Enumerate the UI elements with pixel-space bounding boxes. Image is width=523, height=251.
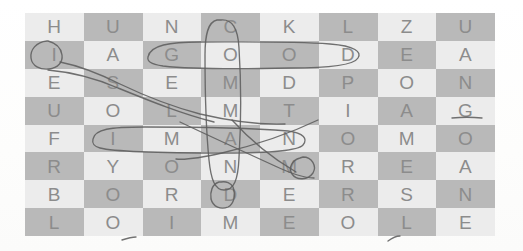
grid-cell[interactable]: M [260,152,319,180]
grid-cell[interactable]: I [143,208,202,236]
grid-cell[interactable]: A [436,41,495,69]
grid-cell[interactable]: L [25,208,84,236]
grid-cell[interactable]: H [25,13,84,41]
grid-cell[interactable]: D [319,41,378,69]
grid-cell[interactable]: I [84,125,143,153]
grid-cell[interactable]: U [436,13,495,41]
grid-cell[interactable]: O [378,69,437,97]
grid-cell[interactable]: O [84,180,143,208]
grid-cell[interactable]: N [143,13,202,41]
grid-row: I A G O O D E A [25,41,495,69]
grid-cell[interactable]: B [25,180,84,208]
grid-cell[interactable]: M [378,125,437,153]
grid-cell[interactable]: R [319,180,378,208]
letter-grid-body: H U N C K L Z U I A G O O D E A [25,13,495,236]
grid-cell[interactable]: D [201,180,260,208]
grid-cell[interactable]: E [378,41,437,69]
grid-row: B O R D E R S N [25,180,495,208]
grid-cell[interactable]: R [143,180,202,208]
worksheet-page: H U N C K L Z U I A G O O D E A [0,0,523,251]
grid-cell[interactable]: A [84,41,143,69]
grid-cell[interactable]: E [378,152,437,180]
grid-row: H U N C K L Z U [25,13,495,41]
grid-row: F I M A N O M O [25,125,495,153]
word-search-grid[interactable]: H U N C K L Z U I A G O O D E A [25,13,495,236]
grid-cell[interactable]: O [84,97,143,125]
grid-cell[interactable]: P [319,69,378,97]
grid-cell[interactable]: I [25,41,84,69]
grid-cell[interactable]: N [260,125,319,153]
grid-cell[interactable]: T [260,97,319,125]
grid-cell[interactable]: M [201,208,260,236]
grid-cell[interactable]: L [378,208,437,236]
grid-cell[interactable]: E [260,180,319,208]
grid-cell[interactable]: U [84,13,143,41]
grid-cell[interactable]: M [201,97,260,125]
grid-cell[interactable]: A [436,152,495,180]
grid-cell[interactable]: A [378,97,437,125]
grid-cell[interactable]: N [436,180,495,208]
grid-cell[interactable]: O [436,125,495,153]
grid-cell[interactable]: O [84,208,143,236]
grid-cell[interactable]: E [143,69,202,97]
grid-cell[interactable]: S [84,69,143,97]
grid-cell[interactable]: Y [84,152,143,180]
grid-cell[interactable]: E [25,69,84,97]
grid-row: L O I M E O L E [25,208,495,236]
grid-cell[interactable]: R [25,152,84,180]
grid-cell[interactable]: N [201,152,260,180]
stray-mark-1 [388,236,400,241]
grid-cell[interactable]: M [143,125,202,153]
grid-row: E S E M D P O N [25,69,495,97]
grid-cell[interactable]: O [201,41,260,69]
grid-cell[interactable]: L [319,13,378,41]
grid-cell[interactable]: R [319,152,378,180]
grid-cell[interactable]: I [319,97,378,125]
letter-grid-table: H U N C K L Z U I A G O O D E A [25,13,495,236]
grid-row: U O L M T I A G [25,97,495,125]
grid-cell[interactable]: A [201,125,260,153]
grid-cell[interactable]: N [436,69,495,97]
stray-mark-2 [122,237,136,240]
grid-cell[interactable]: K [260,13,319,41]
grid-cell[interactable]: O [143,152,202,180]
grid-cell[interactable]: O [260,41,319,69]
grid-cell[interactable]: Z [378,13,437,41]
grid-cell[interactable]: O [319,125,378,153]
grid-cell[interactable]: M [201,69,260,97]
grid-cell[interactable]: S [378,180,437,208]
grid-cell[interactable]: G [143,41,202,69]
grid-cell[interactable]: F [25,125,84,153]
grid-row: R Y O N M R E A [25,152,495,180]
grid-cell[interactable]: O [319,208,378,236]
grid-cell[interactable]: E [260,208,319,236]
grid-cell[interactable]: C [201,13,260,41]
grid-cell[interactable]: L [143,97,202,125]
grid-cell[interactable]: G [436,97,495,125]
grid-cell[interactable]: D [260,69,319,97]
grid-cell[interactable]: U [25,97,84,125]
grid-cell[interactable]: E [436,208,495,236]
